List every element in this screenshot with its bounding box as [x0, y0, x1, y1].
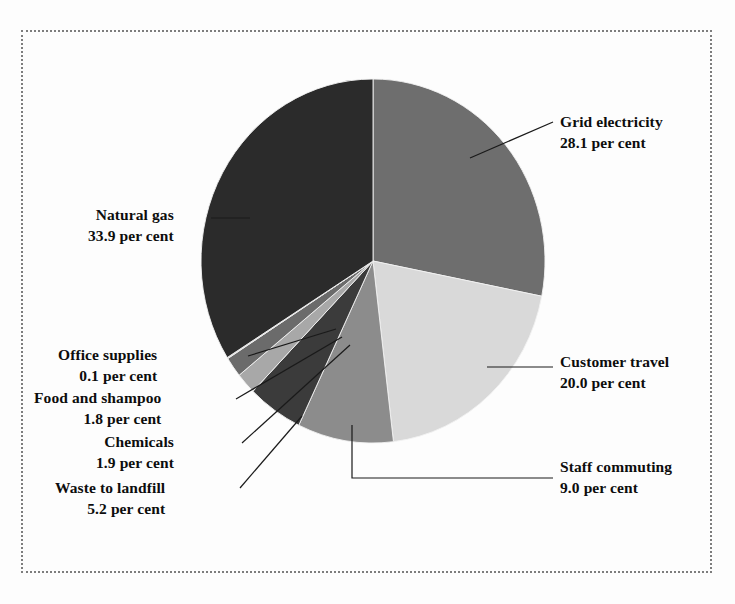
slice-label-chemicals: Chemicals 1.9 per cent: [96, 432, 174, 474]
slice-label-natural-gas-value: 33.9 per cent: [88, 226, 174, 247]
slice-label-food-and-shampoo: Food and shampoo 1.8 per cent: [34, 388, 161, 430]
slice-label-customer-travel-value: 20.0 per cent: [560, 373, 669, 394]
slice-label-waste-to-landfill-name: Waste to landfill: [55, 478, 165, 499]
leader-line-waste-to-landfill: [240, 416, 302, 488]
slice-label-staff-commuting-value: 9.0 per cent: [560, 478, 672, 499]
slice-label-waste-to-landfill: Waste to landfill 5.2 per cent: [55, 478, 165, 520]
slice-label-customer-travel-name: Customer travel: [560, 353, 669, 370]
slice-label-staff-commuting: Staff commuting 9.0 per cent: [560, 457, 672, 499]
pie-slice-group: [201, 79, 545, 443]
pie-slice-grid-electricity: [373, 79, 545, 296]
slice-label-natural-gas-name: Natural gas: [88, 205, 174, 226]
slice-label-grid-electricity-name: Grid electricity: [560, 113, 663, 130]
slice-label-office-supplies-name: Office supplies: [58, 345, 157, 366]
slice-label-customer-travel: Customer travel 20.0 per cent: [560, 352, 669, 394]
pie-chart-figure: Natural gas 33.9 per cent Office supplie…: [0, 0, 735, 604]
slice-label-grid-electricity: Grid electricity 28.1 per cent: [560, 112, 663, 154]
slice-label-waste-to-landfill-value: 5.2 per cent: [55, 499, 165, 520]
slice-label-natural-gas: Natural gas 33.9 per cent: [88, 205, 174, 247]
slice-label-office-supplies: Office supplies 0.1 per cent: [58, 345, 157, 387]
slice-label-chemicals-name: Chemicals: [96, 432, 174, 453]
slice-label-food-and-shampoo-value: 1.8 per cent: [34, 409, 161, 430]
slice-label-chemicals-value: 1.9 per cent: [96, 453, 174, 474]
slice-label-staff-commuting-name: Staff commuting: [560, 458, 672, 475]
slice-label-office-supplies-value: 0.1 per cent: [58, 366, 157, 387]
slice-label-grid-electricity-value: 28.1 per cent: [560, 133, 663, 154]
slice-label-food-and-shampoo-name: Food and shampoo: [34, 388, 161, 409]
